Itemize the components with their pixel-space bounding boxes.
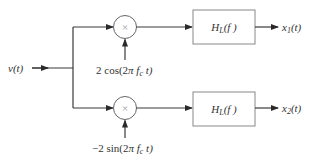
lower-filter-label: HL(f ) [210,103,237,117]
upper-filter-label: HL(f ) [210,21,237,35]
lower-output-label: x2(t) [281,102,302,116]
input-label: v(t) [8,62,24,75]
lower-multiply-icon: × [122,102,128,114]
lower-carrier-label: −2 sin(2π fc t) [92,142,153,156]
upper-carrier-label: 2 cos(2π fc t) [96,64,153,78]
upper-multiply-icon: × [122,21,128,33]
block-diagram: v(t) × 2 cos(2π fc t) HL(f ) x1(t) × −2 … [0,0,315,162]
upper-output-label: x1(t) [281,21,302,35]
